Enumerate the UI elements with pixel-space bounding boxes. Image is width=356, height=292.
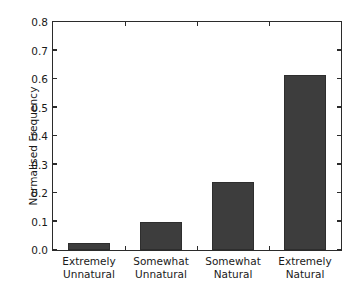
y-axis-tick-label: 0.7 — [31, 45, 48, 57]
x-axis-tick-mark — [125, 246, 126, 250]
y-axis-tick-label: 0.1 — [31, 216, 48, 228]
bar — [284, 75, 326, 250]
x-axis-tick-label: SomewhatUnnatural — [133, 255, 189, 280]
x-axis-tick-label-line: Extremely — [278, 255, 331, 268]
bar — [140, 222, 182, 251]
y-axis-tick-mark — [53, 220, 57, 221]
x-axis-tick-mark-top — [125, 22, 126, 26]
y-axis-tick-label: 0.6 — [31, 73, 48, 85]
x-axis-tick-label-line: Natural — [278, 268, 331, 281]
y-axis-tick-mark-right — [337, 135, 341, 136]
x-axis-tick-label: SomewhatNatural — [205, 255, 261, 280]
x-axis-tick-label-line: Unnatural — [62, 268, 115, 281]
y-axis-tick-mark-right — [337, 163, 341, 164]
bar-chart-figure: Normalised Frequency 0.00.10.20.30.40.50… — [0, 0, 356, 292]
y-axis-tick-mark-right — [337, 49, 341, 50]
y-axis-tick-mark-right — [337, 106, 341, 107]
x-axis-tick-mark — [197, 246, 198, 250]
x-axis-tick-label-line: Somewhat — [133, 255, 189, 268]
y-axis-tick-mark — [53, 106, 57, 107]
x-axis-tick-label: ExtremelyNatural — [278, 255, 331, 280]
y-axis-tick-mark — [53, 21, 57, 22]
plot-area: 0.00.10.20.30.40.50.60.70.8ExtremelyUnna… — [52, 21, 342, 251]
x-axis-tick-label-line: Unnatural — [133, 268, 189, 281]
x-axis-tick-label-line: Natural — [205, 268, 261, 281]
y-axis-tick-mark — [53, 192, 57, 193]
y-axis-tick-mark-right — [337, 192, 341, 193]
y-axis-tick-mark — [53, 135, 57, 136]
x-axis-tick-mark — [341, 246, 342, 250]
x-axis-tick-label-line: Somewhat — [205, 255, 261, 268]
y-axis-tick-mark-right — [337, 78, 341, 79]
y-axis-tick-label: 0.4 — [31, 130, 48, 142]
y-axis-tick-mark-right — [337, 220, 341, 221]
plot-inner: 0.00.10.20.30.40.50.60.70.8ExtremelyUnna… — [53, 22, 341, 250]
x-axis-tick-label-line: Extremely — [62, 255, 115, 268]
x-axis-tick-label: ExtremelyUnnatural — [62, 255, 115, 280]
x-axis-tick-mark — [269, 246, 270, 250]
y-axis-tick-label: 0.8 — [31, 16, 48, 28]
y-axis-tick-label: 0.0 — [31, 244, 48, 256]
y-axis-tick-label: 0.2 — [31, 187, 48, 199]
x-axis-tick-mark-top — [269, 22, 270, 26]
y-axis-tick-label: 0.3 — [31, 159, 48, 171]
y-axis-tick-mark — [53, 163, 57, 164]
bar — [68, 243, 110, 250]
y-axis-tick-label: 0.5 — [31, 102, 48, 114]
y-axis-tick-mark — [53, 249, 57, 250]
x-axis-tick-mark-top — [197, 22, 198, 26]
y-axis-tick-mark — [53, 78, 57, 79]
bar — [212, 182, 254, 250]
x-axis-tick-mark-top — [341, 22, 342, 26]
y-axis-tick-mark — [53, 49, 57, 50]
